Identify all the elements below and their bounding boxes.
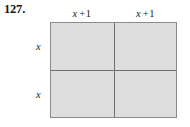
column-label-0-number: 1 (86, 8, 91, 19)
exercise-number: 127. (4, 2, 25, 16)
grid-cell-r0c0 (51, 23, 114, 70)
column-label-0: x+1 (50, 6, 114, 20)
column-label-0-operator: + (79, 8, 86, 19)
grid-divider-horizontal (51, 70, 176, 71)
column-label-1-operator: + (142, 8, 149, 19)
row-label-1: x (30, 70, 48, 118)
area-model-figure: 127. x+1 x+1 x x (0, 0, 190, 127)
column-labels-group: x+1 x+1 (50, 6, 177, 20)
column-label-1-number: 1 (149, 8, 154, 19)
row-label-0-variable: x (36, 41, 42, 52)
column-label-1: x+1 (114, 6, 178, 20)
row-label-0: x (30, 22, 48, 70)
grid-cell-r1c0 (51, 70, 114, 117)
grid-cell-r1c1 (114, 70, 177, 117)
row-labels-group: x x (30, 22, 48, 118)
grid-cell-r0c1 (114, 23, 177, 70)
row-label-1-variable: x (36, 89, 42, 100)
area-model-grid (50, 22, 177, 118)
